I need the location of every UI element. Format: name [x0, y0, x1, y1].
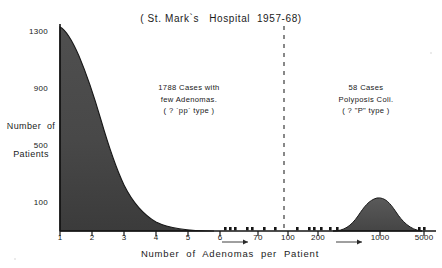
- chart-plot-area: [0, 0, 442, 268]
- scan-speck: [430, 52, 432, 54]
- series-polyposis-coli-area: [333, 198, 422, 231]
- scan-speck: [7, 124, 9, 126]
- chart-figure: ( St. Mark`s Hospital 1957-68) Number of…: [0, 0, 442, 268]
- series-few-adenomas-area: [60, 27, 214, 231]
- scale-break-arrow-right: [336, 240, 362, 245]
- scan-speck: [14, 258, 16, 260]
- scale-break-arrow-left: [222, 240, 248, 245]
